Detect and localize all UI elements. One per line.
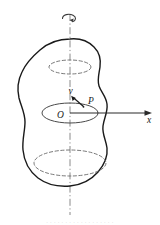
angular-velocity-arrow: [63, 14, 76, 22]
label-o: O: [57, 110, 64, 120]
rigid-body-rotation-figure: v P O x: [0, 0, 160, 225]
figure-caption: · · · · · · · · · · · · · · · · · ·: [0, 219, 160, 225]
velocity-vector: [71, 96, 83, 107]
point-p-marker: [83, 106, 85, 108]
figure-container: v P O x · · · · · · · · · · · · · · · · …: [0, 0, 160, 225]
label-p: P: [87, 96, 94, 106]
label-v: v: [68, 86, 73, 96]
label-x: x: [146, 115, 152, 125]
x-axis: [70, 110, 152, 116]
